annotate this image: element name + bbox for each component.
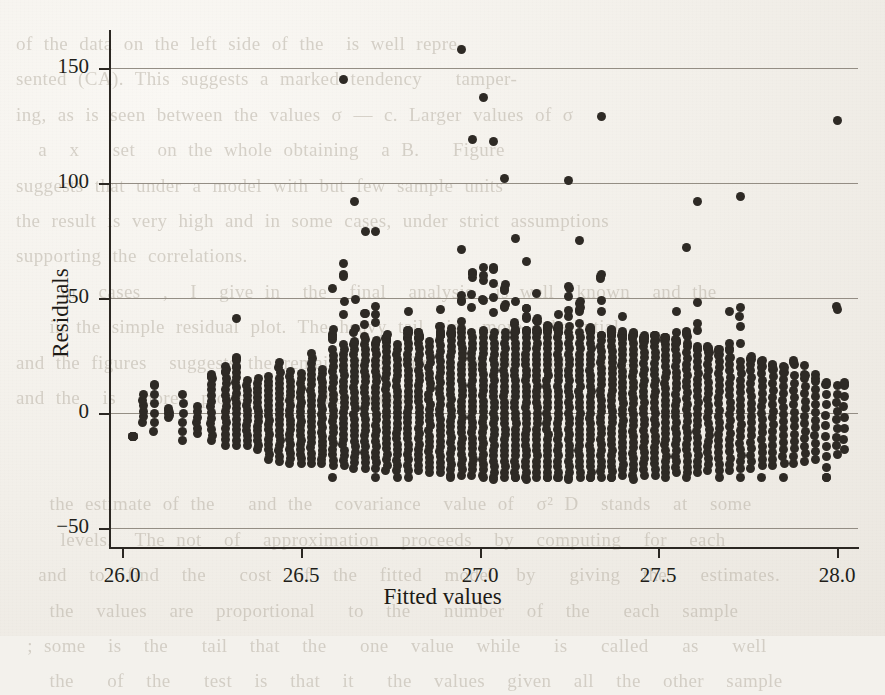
data-point-outlier-high — [833, 116, 842, 125]
data-point — [479, 296, 488, 305]
data-point — [129, 432, 138, 441]
data-point-outlier-low — [489, 475, 498, 484]
data-point-outlier-low — [371, 473, 380, 482]
data-point — [597, 296, 606, 305]
data-point — [415, 331, 424, 340]
data-point-outlier-high — [682, 243, 691, 252]
data-point — [736, 339, 745, 348]
data-point — [780, 363, 789, 372]
data-point — [339, 272, 348, 281]
data-point — [149, 427, 158, 436]
data-point — [736, 322, 745, 331]
data-point — [383, 330, 392, 339]
data-point — [150, 418, 159, 427]
data-point — [254, 374, 263, 383]
data-point — [500, 303, 509, 312]
data-point-outlier-low — [543, 473, 552, 482]
data-point — [349, 328, 358, 337]
data-point — [822, 400, 831, 409]
data-point-outlier-high — [522, 257, 531, 266]
data-point-outlier-high — [371, 227, 380, 236]
data-point — [447, 329, 456, 338]
data-point — [232, 354, 241, 363]
data-point-outlier-low — [736, 473, 745, 482]
data-point — [840, 392, 849, 401]
data-point-outlier-low — [629, 475, 638, 484]
data-point — [811, 392, 820, 401]
data-point-outlier-low — [586, 473, 595, 482]
data-point-outlier-high — [328, 284, 337, 293]
data-point — [490, 328, 499, 337]
data-point — [811, 416, 820, 425]
data-point — [178, 427, 187, 436]
data-point — [457, 324, 466, 333]
data-point — [501, 328, 510, 337]
data-point-outlier-high — [436, 305, 445, 314]
data-point — [651, 331, 660, 340]
data-point — [178, 436, 187, 445]
data-point — [178, 390, 187, 399]
data-point-outlier-high — [725, 307, 734, 316]
data-point — [840, 424, 849, 433]
data-point — [329, 325, 338, 334]
data-point — [800, 361, 809, 370]
data-point — [178, 418, 187, 427]
data-point — [404, 326, 413, 335]
data-point-outlier-high — [564, 176, 573, 185]
data-point — [393, 340, 402, 349]
data-point — [544, 322, 553, 331]
data-point-outlier-high — [618, 312, 627, 321]
data-point-outlier-low — [328, 473, 337, 482]
data-point — [339, 259, 348, 268]
data-point — [150, 399, 159, 408]
data-point — [801, 397, 810, 406]
data-point — [467, 303, 476, 312]
data-point — [790, 430, 799, 439]
data-point — [500, 286, 509, 295]
data-point — [790, 408, 799, 417]
data-point — [425, 337, 434, 346]
data-point — [533, 317, 542, 326]
data-point-outlier-high — [672, 307, 681, 316]
data-point-outlier-high — [500, 174, 509, 183]
data-point — [822, 452, 831, 461]
data-point — [564, 282, 573, 291]
data-point — [821, 432, 830, 441]
data-point — [489, 293, 498, 302]
data-point — [801, 427, 810, 436]
data-point — [339, 310, 348, 319]
data-point-outlier-high — [736, 192, 745, 201]
data-point — [840, 445, 849, 454]
data-point — [811, 408, 820, 417]
data-point — [522, 304, 531, 313]
data-point-outlier-low — [404, 473, 413, 482]
data-point — [179, 399, 188, 408]
data-point — [596, 274, 605, 283]
data-point — [640, 333, 649, 342]
data-point-outlier-low — [522, 475, 531, 484]
data-point — [811, 423, 820, 432]
data-point — [351, 295, 360, 304]
data-point-outlier-high — [575, 236, 584, 245]
data-point — [360, 332, 369, 341]
data-point-outlier-low — [479, 473, 488, 482]
data-point — [150, 390, 159, 399]
data-point-outlier-high — [350, 197, 359, 206]
data-point — [489, 264, 498, 273]
data-point — [790, 371, 799, 380]
data-point — [139, 390, 148, 399]
data-point-outlier-high — [532, 289, 541, 298]
data-point — [575, 319, 584, 328]
data-point — [576, 303, 585, 312]
data-point — [833, 305, 842, 314]
data-point — [661, 333, 670, 342]
data-point — [436, 327, 445, 336]
data-point — [221, 367, 230, 376]
data-point-outlier-high — [404, 307, 413, 316]
data-point — [801, 371, 810, 380]
data-point-outlier-low — [393, 473, 402, 482]
data-point — [150, 380, 159, 389]
data-point-outlier-low — [607, 473, 616, 482]
data-point-outlier-high — [554, 310, 563, 319]
data-point — [789, 452, 798, 461]
